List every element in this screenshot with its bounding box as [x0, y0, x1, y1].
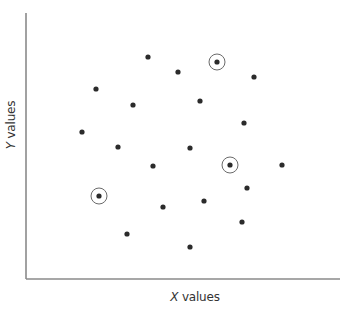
data-point — [115, 144, 120, 149]
data-point — [279, 162, 284, 167]
data-point — [150, 163, 155, 168]
data-point — [197, 98, 202, 103]
data-point — [187, 244, 192, 249]
data-point — [130, 102, 135, 107]
data-point — [201, 198, 206, 203]
x-axis-label: X values — [150, 290, 240, 304]
scatter-chart — [0, 0, 359, 316]
data-point — [241, 120, 246, 125]
y-axis-label: Y values — [4, 90, 18, 160]
data-point — [251, 74, 256, 79]
data-points — [79, 54, 284, 250]
data-point — [239, 219, 244, 224]
data-point — [145, 54, 150, 59]
data-point — [227, 162, 232, 167]
data-point — [175, 69, 180, 74]
data-point — [214, 59, 219, 64]
data-point — [244, 185, 249, 190]
data-point — [96, 193, 101, 198]
data-point — [124, 231, 129, 236]
y-axis-label-text: values — [4, 101, 18, 142]
data-point — [93, 86, 98, 91]
y-axis-variable: Y — [4, 142, 18, 149]
data-point — [160, 204, 165, 209]
x-axis-label-text: values — [178, 290, 219, 304]
data-point — [187, 145, 192, 150]
data-point — [79, 129, 84, 134]
